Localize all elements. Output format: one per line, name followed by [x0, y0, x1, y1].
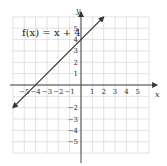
- svg-text:1: 1: [74, 70, 78, 78]
- x-axis-label: x: [155, 90, 160, 99]
- svg-text:5: 5: [136, 88, 140, 96]
- svg-text:−2: −2: [53, 88, 63, 96]
- svg-text:2: 2: [101, 88, 105, 96]
- function-label: f(x) = x + 4: [22, 27, 81, 38]
- svg-text:−4: −4: [68, 127, 79, 135]
- svg-text:−1: −1: [64, 88, 74, 96]
- svg-text:4: 4: [124, 88, 129, 96]
- svg-text:−3: −3: [42, 88, 52, 96]
- y-axis-label: y: [75, 6, 81, 15]
- svg-text:−2: −2: [68, 104, 78, 112]
- svg-text:−3: −3: [68, 116, 78, 124]
- svg-text:3: 3: [113, 88, 117, 96]
- svg-text:1: 1: [90, 88, 94, 96]
- svg-text:3: 3: [74, 47, 78, 55]
- svg-text:2: 2: [74, 59, 78, 67]
- function-graph: −5−4−3−2−11234554321−2−3−4−5 f(x) = x + …: [0, 0, 167, 166]
- svg-text:−5: −5: [68, 138, 78, 146]
